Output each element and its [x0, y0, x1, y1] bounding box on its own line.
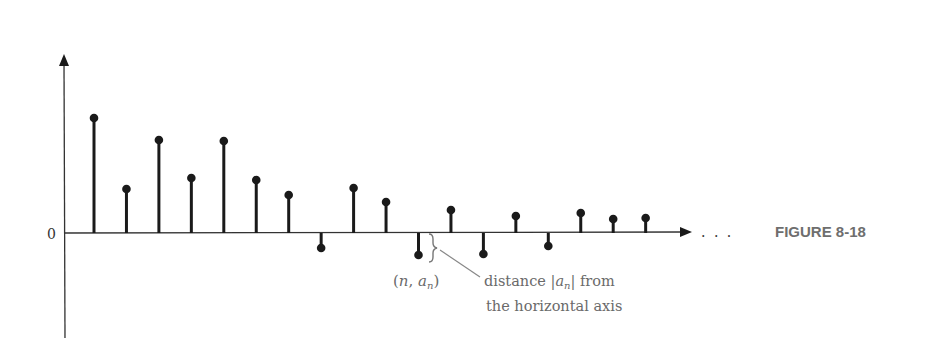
y-axis-arrow-icon [59, 54, 69, 66]
stem-plot: 0 . . . (n, an) distance |an| from the h… [0, 0, 935, 352]
stem-point [512, 212, 521, 221]
stem-point [220, 137, 229, 146]
stem-point [447, 206, 456, 215]
stem-point [414, 251, 423, 260]
stem-point [252, 176, 261, 185]
x-axis-arrow-icon [680, 227, 692, 237]
stem-point [576, 209, 585, 218]
stem-point [187, 174, 196, 183]
stem-point [155, 136, 164, 145]
x-axis [64, 232, 682, 233]
stem-point [284, 191, 293, 200]
stem-point [349, 184, 358, 193]
annotation-line-2: the horizontal axis [486, 298, 622, 314]
point-label: (n, an) [393, 272, 439, 291]
stems-group [90, 114, 650, 260]
stem-point [382, 198, 391, 207]
zero-label: 0 [47, 226, 56, 242]
stem-point [609, 215, 618, 224]
stem-point [641, 214, 650, 223]
y-axis [64, 62, 65, 338]
stem-point [544, 242, 553, 251]
brace-icon [429, 234, 437, 262]
stem-point [90, 114, 99, 123]
annotation-line-1: distance |an| from [484, 273, 615, 291]
figure-label: FIGURE 8-18 [775, 223, 866, 240]
annotation-leader-line [440, 250, 480, 277]
ellipsis: . . . [701, 224, 733, 240]
stem-point [122, 185, 131, 194]
stem-point [317, 244, 326, 253]
stem-point [479, 250, 488, 259]
